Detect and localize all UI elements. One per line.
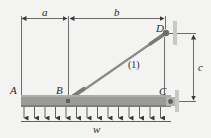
label-member-1: (1) xyxy=(128,60,140,70)
pin-b xyxy=(66,99,70,103)
label-c: c xyxy=(198,62,203,73)
label-b: b xyxy=(114,7,120,18)
extension-lines xyxy=(22,16,197,102)
label-w: w xyxy=(93,124,100,135)
label-a: a xyxy=(42,7,48,18)
distributed-load xyxy=(21,107,171,122)
diagram-graphics xyxy=(0,0,211,138)
wall-plate-d xyxy=(173,21,177,45)
label-b-point: B xyxy=(56,85,63,96)
label-c-point: C xyxy=(159,86,166,97)
diagram-canvas: a b D c (1) A B C w xyxy=(0,0,211,138)
label-a-point: A xyxy=(10,85,17,96)
label-d: D xyxy=(156,23,164,34)
pin-c xyxy=(168,99,173,104)
wall-plate-c xyxy=(175,90,179,112)
